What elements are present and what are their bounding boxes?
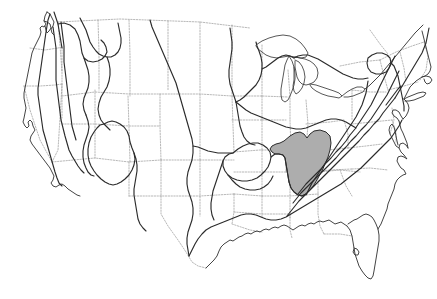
- map-canvas: [0, 0, 437, 299]
- map-background: [0, 0, 437, 299]
- us-physiographic-provinces-map: [0, 0, 437, 299]
